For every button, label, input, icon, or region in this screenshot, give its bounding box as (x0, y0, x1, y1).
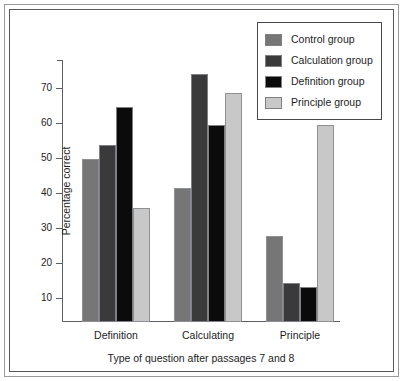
y-tick: 10 (56, 298, 63, 299)
y-axis-top-cap (57, 60, 63, 61)
calculation-swatch (265, 55, 282, 67)
bar-principle-principle (317, 125, 334, 322)
figure-frame: 10203040506070 DefinitionCalculatingPrin… (0, 0, 403, 381)
legend-box: Control groupCalculation groupDefinition… (257, 22, 382, 120)
legend-label-calculation: Calculation group (291, 55, 373, 66)
bar-principle-calculating (225, 93, 242, 322)
legend-label-principle: Principle group (291, 97, 361, 108)
y-tick: 20 (56, 263, 63, 264)
bar-principle-definition (133, 208, 150, 322)
x-axis-title: Type of question after passages 7 and 8 (62, 352, 340, 364)
y-tick-label: 20 (41, 258, 52, 268)
legend-item-principle[interactable]: Principle group (265, 92, 375, 113)
bar-calculation-calculating (191, 74, 208, 322)
definition-swatch (265, 76, 282, 88)
y-tick-label: 30 (41, 223, 52, 233)
control-swatch (265, 34, 282, 46)
legend-item-calculation[interactable]: Calculation group (265, 50, 375, 71)
y-tick-label: 60 (41, 118, 52, 128)
bar-calculation-definition (99, 145, 116, 322)
y-tick-label: 70 (41, 83, 52, 93)
legend-item-control[interactable]: Control group (265, 29, 375, 50)
y-tick: 60 (56, 123, 63, 124)
y-tick: 70 (56, 88, 63, 89)
category-label-principle: Principle (280, 330, 320, 341)
legend-item-definition[interactable]: Definition group (265, 71, 375, 92)
category-label-definition: Definition (94, 330, 138, 341)
bar-control-principle (266, 236, 283, 322)
y-tick-label: 10 (41, 293, 52, 303)
y-tick-label: 50 (41, 153, 52, 163)
principle-swatch (265, 97, 282, 109)
bar-control-definition (82, 159, 99, 322)
bar-definition-calculating (208, 125, 225, 322)
bar-control-calculating (174, 188, 191, 322)
bar-definition-principle (300, 287, 317, 322)
legend-label-control: Control group (291, 34, 355, 45)
category-label-calculating: Calculating (182, 330, 234, 341)
bar-calculation-principle (283, 283, 300, 322)
y-tick-label: 40 (41, 188, 52, 198)
bar-definition-definition (116, 107, 133, 322)
y-axis-title: Percentage correct (60, 147, 72, 236)
legend-label-definition: Definition group (291, 76, 365, 87)
